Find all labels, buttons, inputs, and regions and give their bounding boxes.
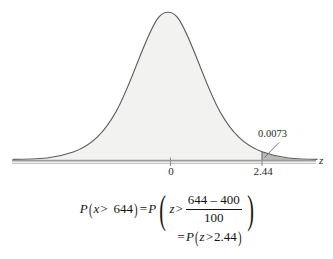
eq1-equals: =	[139, 201, 148, 217]
eq1-value-644: 644	[114, 201, 134, 217]
eq2-value-244: 2.44	[214, 229, 237, 245]
eq1-numerator-minus: –	[211, 192, 218, 207]
x-tick-label-244: 2.44	[248, 166, 278, 177]
normal-distribution-figure: 0 2.44 z 0.0073 P(x>644)=P(z> 644 – 400 …	[0, 0, 333, 259]
eq1-p-left: P	[80, 201, 88, 217]
eq2-operator-gt: >	[205, 229, 214, 245]
normal-curve-chart	[0, 0, 333, 185]
eq1-p-right: P	[148, 201, 156, 217]
x-axis-label: z	[319, 155, 323, 166]
eq1-numerator-400: 400	[220, 192, 240, 207]
eq1-operator-gt-right: >	[174, 201, 183, 217]
eq1-fraction-denominator: 100	[202, 210, 226, 225]
tail-area-annotation: 0.0073	[258, 129, 287, 140]
probability-equation: P(x>644)=P(z> 644 – 400 100 ) =P(z>2.44)	[0, 190, 333, 248]
equation-line-1: P(x>644)=P(z> 644 – 400 100 )	[0, 190, 333, 228]
equation-line-2: =P(z>2.44)	[0, 226, 333, 248]
eq1-numerator-644: 644	[188, 192, 208, 207]
eq2-paren-open: (	[195, 229, 199, 246]
x-tick-label-zero: 0	[164, 166, 178, 177]
eq1-operator-gt-left: >	[99, 201, 108, 217]
eq2-paren-close: )	[238, 229, 242, 246]
eq2-equals: =	[177, 229, 186, 245]
eq1-fraction-numerator: 644 – 400	[186, 193, 242, 208]
eq1-paren-open-left: (	[89, 201, 93, 218]
eq1-fraction: 644 – 400 100	[186, 193, 242, 224]
eq2-p: P	[186, 229, 194, 245]
eq1-paren-close-left: )	[134, 201, 138, 218]
